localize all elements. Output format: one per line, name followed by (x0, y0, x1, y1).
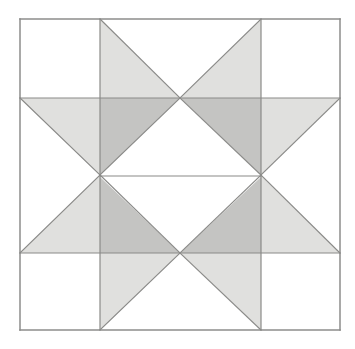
quilt-block-canvas (0, 0, 355, 349)
quilt-block-figure (0, 0, 355, 349)
